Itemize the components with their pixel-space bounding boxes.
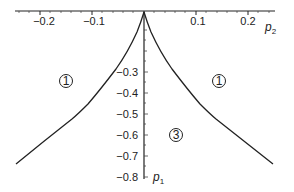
y-tick-label: −0.6 <box>116 129 138 141</box>
svg-text:1: 1 <box>63 74 70 88</box>
x-tick-label: −0.2 <box>33 15 55 27</box>
svg-text:3: 3 <box>173 128 180 142</box>
right-boundary-curve <box>144 12 273 164</box>
x-axis-label: p2 <box>264 20 277 36</box>
y-axis: −0.3 −0.4 −0.5 −0.6 −0.7 −0.8 p1 <box>116 11 164 186</box>
svg-text:1: 1 <box>216 74 223 88</box>
y-tick-label: −0.7 <box>116 150 138 162</box>
x-tick-label: −0.1 <box>83 15 105 27</box>
region-label-left: 1 <box>60 74 73 88</box>
y-tick-label: −0.3 <box>116 66 138 78</box>
x-tick-label: 0.1 <box>190 15 205 27</box>
y-tick-label: −0.4 <box>116 87 138 99</box>
region-label-right: 1 <box>213 74 226 88</box>
y-tick-label: −0.5 <box>116 108 138 120</box>
x-tick-label: 0.2 <box>240 15 255 27</box>
y-tick-label: −0.8 <box>116 171 138 183</box>
x-axis: −0.2 −0.1 0.1 0.2 p2 <box>15 11 277 36</box>
chart: −0.2 −0.1 0.1 0.2 p2 −0.3 −0.4 <box>0 0 294 192</box>
region-label-center: 3 <box>170 128 183 142</box>
y-axis-label: p1 <box>152 170 165 186</box>
